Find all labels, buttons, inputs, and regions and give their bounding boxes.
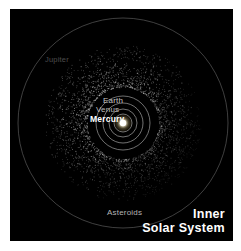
figure-title-line1: Inner — [142, 208, 225, 222]
solar-system-plot-area: Jupiter Earth Venus Mercury Asteroids In… — [10, 9, 233, 241]
figure-title-line2: Solar System — [142, 222, 225, 236]
figure-title: Inner Solar System — [142, 208, 225, 235]
figure-canvas: Jupiter Earth Venus Mercury Asteroids In… — [0, 0, 241, 251]
sun-icon — [120, 120, 126, 126]
